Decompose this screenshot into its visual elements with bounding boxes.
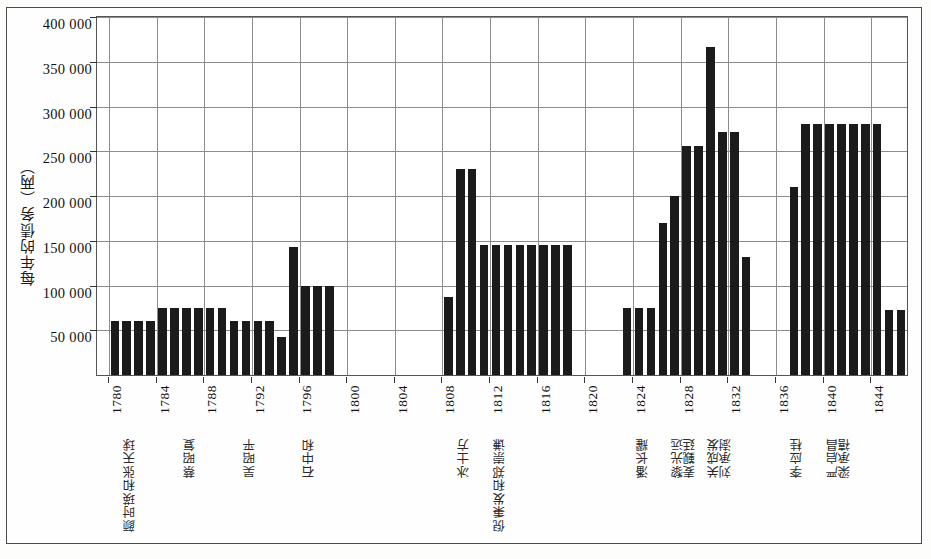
bar	[170, 308, 179, 375]
bar	[551, 245, 560, 375]
bar	[825, 124, 834, 375]
bar	[849, 124, 858, 375]
bar	[134, 321, 143, 375]
merchant-name-label: 李应桂	[787, 437, 806, 478]
bar	[206, 308, 215, 375]
y-tick-label: 50 000	[50, 329, 92, 346]
x-tick-label: 1796	[299, 385, 315, 414]
bar	[182, 308, 191, 375]
x-tick-label: 1836	[776, 385, 792, 414]
x-tick-label: 1792	[252, 385, 268, 414]
x-tick-label: 1832	[728, 385, 744, 414]
y-tick-mark	[90, 241, 97, 242]
bar	[158, 308, 167, 375]
y-tick-label: 400 000	[43, 16, 92, 33]
y-gridline	[97, 107, 907, 108]
x-tick-mark	[489, 377, 490, 383]
bar	[527, 245, 536, 375]
bar	[706, 47, 715, 375]
merchant-name-label: 冰士方	[454, 437, 473, 478]
bar	[313, 286, 322, 376]
bar	[146, 321, 155, 375]
merchant-name-label: 吴昭平	[240, 437, 259, 478]
bar	[325, 286, 334, 376]
bar	[647, 308, 656, 375]
y-gridline	[97, 151, 907, 152]
bar	[837, 124, 846, 375]
x-tick-mark	[108, 377, 109, 383]
y-tick-label: 300 000	[43, 105, 92, 122]
y-tick-label: 200 000	[43, 195, 92, 212]
y-tick-label: 150 000	[43, 239, 92, 256]
merchant-name-label: 蔡昭复	[180, 437, 199, 478]
bar	[873, 124, 882, 375]
merchant-name-label: 潘长耀	[633, 437, 652, 478]
x-tick-label: 1840	[824, 385, 840, 414]
bar	[301, 286, 310, 376]
y-tick-mark	[90, 62, 97, 63]
x-gridline	[347, 17, 348, 375]
bar	[277, 337, 286, 375]
x-tick-label: 1804	[395, 385, 411, 414]
x-tick-label: 1808	[442, 385, 458, 414]
bar	[897, 310, 906, 375]
x-tick-mark	[775, 377, 776, 383]
x-tick-mark	[632, 377, 633, 383]
x-tick-mark	[537, 377, 538, 383]
bar	[265, 321, 274, 375]
x-axis: 1780178417881792179618001804180818121816…	[96, 377, 908, 439]
bar	[563, 245, 572, 375]
x-tick-label: 1812	[490, 385, 506, 414]
bar	[670, 196, 679, 375]
bar	[635, 308, 644, 375]
merchant-name-label: 麦觐廷	[680, 437, 699, 478]
merchant-name-label: 梁承禧	[835, 437, 854, 478]
merchant-name-label: 颜时瑛和张天球	[120, 437, 139, 532]
bar	[659, 223, 668, 375]
bar	[504, 245, 513, 375]
bar	[242, 321, 251, 375]
bar	[468, 169, 477, 375]
bar	[539, 245, 548, 375]
merchant-name-label: 刘承澍	[716, 437, 735, 478]
bar	[623, 308, 632, 375]
x-tick-mark	[680, 377, 681, 383]
x-tick-mark	[441, 377, 442, 383]
merchant-name-label: 石中和	[299, 437, 318, 478]
x-tick-label: 1780	[109, 385, 125, 414]
x-tick-label: 1816	[538, 385, 554, 414]
bar	[194, 308, 203, 375]
bar	[444, 297, 453, 375]
merchant-name-annotations: 颜时瑛和张天球蔡昭复吴昭平石中和冰士方倪秉发和郑崇谦潘长耀黎光远麦觐廷关成发刘承…	[96, 437, 908, 545]
bar	[230, 321, 239, 375]
bar	[801, 124, 810, 375]
y-gridline	[97, 62, 907, 63]
x-tick-label: 1828	[681, 385, 697, 414]
bar	[122, 321, 131, 375]
y-axis-tick-labels: 400 000350 000300 000250 000200 000150 0…	[30, 8, 92, 376]
plot-area	[96, 16, 908, 376]
bar	[682, 146, 691, 375]
bar	[492, 245, 501, 375]
x-tick-mark	[346, 377, 347, 383]
y-tick-mark	[90, 196, 97, 197]
y-gridline	[97, 286, 907, 287]
y-tick-label: 250 000	[43, 150, 92, 167]
x-tick-label: 1784	[157, 385, 173, 414]
x-gridline	[585, 17, 586, 375]
chart-screenshot: 每年的债务（两） 400 000350 000300 000250 000200…	[0, 0, 931, 559]
y-tick-mark	[90, 17, 97, 18]
x-gridline	[776, 17, 777, 375]
bar	[456, 169, 465, 375]
x-tick-label: 1800	[347, 385, 363, 414]
bar	[694, 146, 703, 375]
bar	[516, 245, 525, 375]
x-tick-mark	[584, 377, 585, 383]
x-tick-label: 1788	[204, 385, 220, 414]
y-tick-mark	[90, 330, 97, 331]
bar	[718, 132, 727, 375]
bar	[885, 310, 894, 375]
y-tick-mark	[90, 286, 97, 287]
bar	[861, 124, 870, 375]
x-tick-mark	[251, 377, 252, 383]
